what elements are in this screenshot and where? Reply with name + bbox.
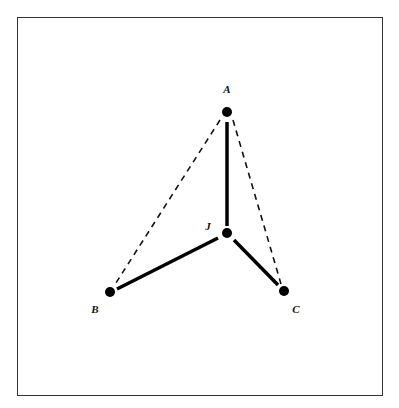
node-b — [105, 287, 115, 297]
label-a: A — [222, 83, 230, 95]
label-c: C — [292, 303, 300, 315]
diagram-canvas: A J B C — [0, 0, 399, 408]
edge-j-c — [234, 240, 278, 285]
node-c — [279, 286, 289, 296]
node-j — [222, 228, 232, 238]
label-b: B — [90, 303, 98, 315]
edge-j-b — [117, 238, 218, 289]
node-a — [222, 107, 232, 117]
label-j: J — [204, 220, 211, 232]
edge-a-b-dashed — [114, 120, 220, 286]
edge-a-c-dashed — [233, 120, 281, 284]
frame — [18, 18, 383, 396]
